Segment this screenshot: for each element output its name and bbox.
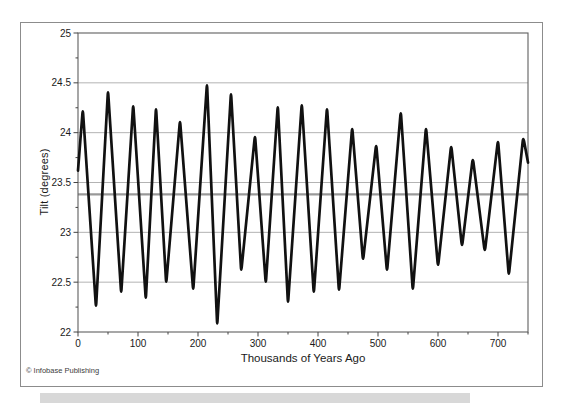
copyright-notice: © Infobase Publishing xyxy=(26,366,99,375)
x-tick-label: 700 xyxy=(490,338,507,349)
y-axis-title: Tilt (degrees) xyxy=(38,148,50,215)
x-tick-label: 500 xyxy=(370,338,387,349)
x-tick-label: 400 xyxy=(310,338,327,349)
y-tick-label: 23.5 xyxy=(52,177,72,188)
x-tick-label: 200 xyxy=(190,338,207,349)
tilt-curve xyxy=(78,85,528,323)
y-tick-label: 24 xyxy=(60,127,72,138)
y-tick-label: 22 xyxy=(60,327,72,338)
y-tick-label: 24.5 xyxy=(52,77,72,88)
y-tick-label: 23 xyxy=(60,227,72,238)
x-axis-title: Thousands of Years Ago xyxy=(241,352,366,364)
obliquity-chart: 2222.52323.52424.52501002003004005006007… xyxy=(0,0,563,403)
x-tick-label: 300 xyxy=(250,338,267,349)
x-tick-label: 0 xyxy=(75,338,81,349)
figure-canvas: 2222.52323.52424.52501002003004005006007… xyxy=(0,0,563,403)
x-tick-label: 600 xyxy=(430,338,447,349)
y-tick-label: 22.5 xyxy=(52,277,72,288)
y-tick-label: 25 xyxy=(60,28,72,39)
caption-strip xyxy=(40,393,470,403)
x-tick-label: 100 xyxy=(130,338,147,349)
